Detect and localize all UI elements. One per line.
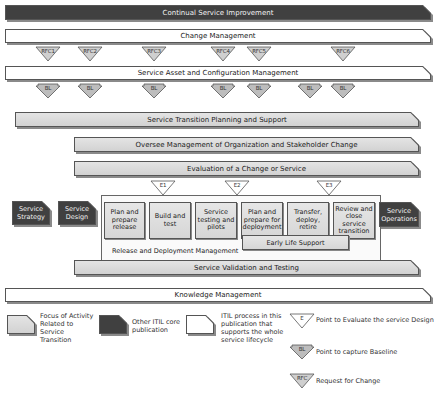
service-operations-box: Service Operations — [379, 202, 419, 227]
bl-marker: BL — [35, 83, 61, 99]
service-strategy-label: Service Strategy — [13, 202, 49, 224]
rfc-marker: RFC5 — [246, 46, 272, 62]
e-marker: E3 — [316, 180, 342, 196]
bl-marker: BL — [246, 83, 272, 99]
legend-e-marker: E — [289, 313, 315, 329]
legend-rfc-text: Request for Change — [316, 377, 380, 385]
rfc-marker: RFC1 — [35, 46, 61, 62]
legend-bl-marker: BL — [289, 344, 315, 360]
knowledge-management-bar: Knowledge Management — [5, 288, 431, 302]
legend-other-core-text: Other ITIL core publication — [132, 318, 182, 334]
oversee-bar: Oversee Management of Organization and S… — [74, 137, 419, 152]
release-step: Plan and prepare for deployment — [241, 202, 283, 239]
e-marker: E2 — [224, 180, 250, 196]
csi-bar: Continual Service Improvement — [5, 5, 431, 20]
legend-other-core-swatch — [99, 315, 127, 334]
legend-itil-process-swatch — [186, 315, 214, 334]
sacm-bar: Service Asset and Configuration Manageme… — [5, 66, 431, 80]
stps-label: Service Transition Planning and Support — [16, 113, 418, 126]
service-operations-label: Service Operations — [380, 203, 418, 226]
svt-label: Service Validation and Testing — [75, 261, 418, 274]
legend-rfc-marker: RFC — [289, 373, 315, 389]
oversee-label: Oversee Management of Organization and S… — [75, 138, 418, 151]
service-design-label: Service Design — [59, 202, 95, 224]
release-step: Service testing and pilots — [195, 202, 237, 239]
rfc-marker: RFC2 — [77, 46, 103, 62]
early-life-support-box: Early Life Support — [242, 235, 349, 250]
bl-marker: BL — [297, 83, 323, 99]
bl-marker: BL — [330, 83, 356, 99]
rfc-marker: RFC6 — [330, 46, 356, 62]
release-step: Transfer, deploy, retire — [287, 202, 329, 239]
release-step: Plan and prepare release — [104, 202, 145, 239]
stps-bar: Service Transition Planning and Support — [15, 112, 419, 127]
csi-label: Continual Service Improvement — [6, 6, 430, 19]
rfc-marker: RFC4 — [210, 46, 236, 62]
release-deployment-label: Release and Deployment Management — [112, 247, 238, 255]
evaluation-label: Evaluation of a Change or Service — [75, 162, 418, 175]
service-strategy-box: Service Strategy — [12, 201, 50, 225]
release-step: Review and close service transition — [333, 202, 375, 239]
svt-bar: Service Validation and Testing — [74, 260, 419, 275]
release-step: Build and test — [149, 202, 191, 239]
rfc-marker: RFC3 — [141, 46, 167, 62]
evaluation-bar: Evaluation of a Change or Service — [74, 161, 419, 176]
legend-focus-swatch — [7, 315, 35, 334]
sacm-label: Service Asset and Configuration Manageme… — [6, 67, 430, 79]
e-marker: E1 — [150, 180, 176, 196]
bl-marker: BL — [77, 83, 103, 99]
bl-marker: BL — [141, 83, 167, 99]
knowledge-management-label: Knowledge Management — [6, 289, 430, 301]
service-design-box: Service Design — [58, 201, 96, 225]
legend-bl-text: Point to capture Baseline — [316, 348, 397, 356]
bl-marker: BL — [210, 83, 236, 99]
change-management-bar: Change Management — [5, 29, 431, 43]
legend-e-text: Point to Evaluate the service Design — [316, 316, 434, 324]
change-management-label: Change Management — [6, 30, 430, 42]
legend-focus-text: Focus of Activity Related to Service Tra… — [40, 312, 95, 344]
legend-itil-process-text: ITIL process in this publication that su… — [221, 312, 286, 344]
